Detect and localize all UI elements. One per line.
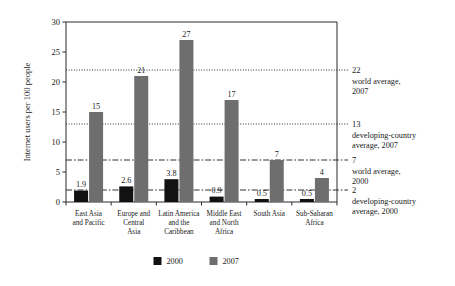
- legend-label-2007: 2007: [223, 257, 239, 266]
- category-label-3-0: Middle East: [207, 210, 242, 218]
- bar-2000-4: [255, 199, 269, 202]
- bar-2007-2: [179, 40, 193, 202]
- reference-text-2-0: developing-country: [352, 197, 417, 206]
- category-label-3-1: and North: [210, 219, 239, 227]
- bar-value-label-2000-4: 0.5: [257, 189, 267, 198]
- category-label-2-0: Latin America: [158, 210, 200, 218]
- internet-users-bar-chart: 051015202530Internet users per 100 peopl…: [0, 0, 455, 286]
- bar-value-label-2007-0: 15: [92, 102, 100, 111]
- bar-2007-0: [89, 112, 103, 202]
- bar-value-label-2000-2: 3.8: [166, 169, 176, 178]
- reference-value-2: 2: [352, 185, 356, 195]
- y-axis-title: Internet users per 100 people: [22, 62, 32, 161]
- y-tick-label-30: 30: [52, 17, 61, 27]
- bar-value-label-2007-4: 7: [275, 150, 279, 159]
- reference-text-22-1: 2007: [352, 87, 368, 96]
- category-label-5-1: Africa: [305, 219, 324, 227]
- reference-text-7-0: world average,: [352, 167, 401, 176]
- bar-value-label-2000-0: 1.9: [76, 180, 86, 189]
- bar-2000-2: [164, 179, 178, 202]
- chart-container: 051015202530Internet users per 100 peopl…: [0, 0, 455, 286]
- category-label-5-0: Sub-Saharan: [296, 210, 333, 218]
- category-label-1-0: Europe and: [117, 210, 150, 218]
- y-tick-label-25: 25: [52, 47, 61, 57]
- category-label-0-1: and Pacific: [73, 219, 105, 227]
- bar-2000-5: [300, 199, 314, 202]
- bar-2007-3: [225, 100, 239, 202]
- legend-swatch-2000: [154, 257, 162, 265]
- y-tick-label-5: 5: [56, 167, 60, 177]
- bar-2000-3: [210, 197, 224, 202]
- legend-swatch-2007: [210, 257, 218, 265]
- category-label-2-2: Caribbean: [164, 228, 194, 236]
- legend-label-2000: 2000: [167, 257, 183, 266]
- category-label-1-1: Central: [123, 219, 144, 227]
- reference-text-13-0: developing-country: [352, 131, 417, 140]
- bar-value-label-2007-2: 27: [182, 30, 190, 39]
- reference-text-22-0: world average,: [352, 77, 401, 86]
- reference-text-2-1: average, 2000: [352, 207, 398, 216]
- bar-value-label-2007-5: 4: [320, 168, 324, 177]
- bar-2007-5: [315, 178, 329, 202]
- bar-value-label-2007-1: 21: [137, 66, 145, 75]
- y-tick-label-20: 20: [52, 77, 61, 87]
- reference-text-13-1: average, 2007: [352, 141, 398, 150]
- reference-value-13: 13: [352, 119, 361, 129]
- y-tick-label-10: 10: [52, 137, 61, 147]
- reference-value-22: 22: [352, 65, 361, 75]
- bar-2000-0: [74, 191, 88, 202]
- bar-value-label-2000-1: 2.6: [121, 176, 131, 185]
- y-tick-label-15: 15: [52, 107, 61, 117]
- reference-value-7: 7: [352, 155, 356, 165]
- bar-value-label-2007-3: 17: [227, 90, 235, 99]
- bar-value-label-2000-5: 0.5: [302, 189, 312, 198]
- category-label-4-0: South Asia: [254, 210, 286, 218]
- category-label-3-2: Africa: [215, 228, 234, 236]
- category-label-2-1: and the: [168, 219, 189, 227]
- bar-value-label-2000-3: 0.9: [211, 186, 221, 195]
- bar-2007-4: [270, 160, 284, 202]
- bar-2007-1: [134, 76, 148, 202]
- y-tick-label-0: 0: [56, 197, 60, 207]
- category-label-0-0: East Asia: [75, 210, 103, 218]
- bar-2000-1: [119, 186, 133, 202]
- category-label-1-2: Asia: [127, 228, 141, 236]
